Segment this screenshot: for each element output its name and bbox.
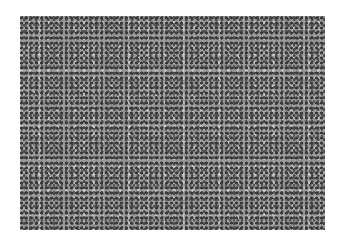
histology-image — [20, 16, 325, 230]
